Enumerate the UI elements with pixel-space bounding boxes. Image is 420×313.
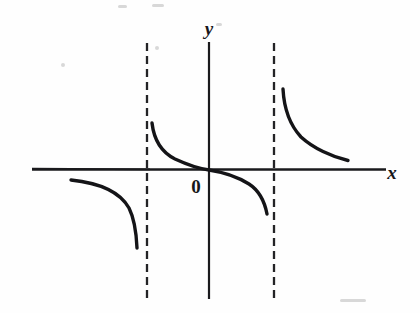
scan-speck bbox=[216, 23, 222, 26]
curve-branch-far-left bbox=[71, 180, 137, 248]
scan-speck bbox=[118, 5, 127, 8]
x-axis-label: x bbox=[386, 162, 397, 183]
scan-speck bbox=[152, 4, 164, 7]
scan-speck bbox=[61, 63, 65, 67]
coordinate-plot: x y 0 bbox=[0, 0, 420, 313]
scan-speck bbox=[155, 46, 159, 50]
graph-figure: x y 0 bbox=[0, 0, 420, 313]
x-axis-taper bbox=[32, 169, 150, 170]
curve-branch-far-right bbox=[283, 89, 348, 161]
y-axis-label: y bbox=[203, 18, 214, 39]
scan-speck bbox=[340, 299, 366, 302]
origin-label: 0 bbox=[191, 176, 201, 197]
